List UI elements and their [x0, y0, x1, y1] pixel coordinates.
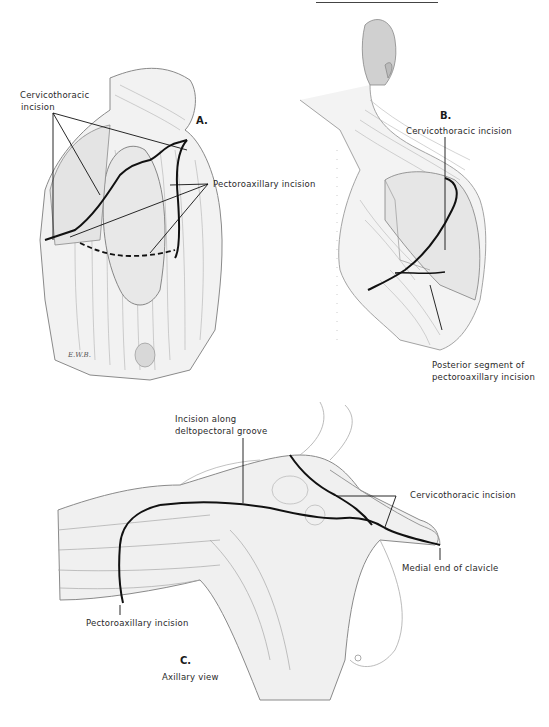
panel-b-letter: B.	[440, 110, 451, 121]
label-a-cervicothoracic-line2: incision	[21, 102, 55, 113]
label-c-medial-clavicle: Medial end of clavicle	[402, 563, 499, 574]
label-c-deltopectoral-line2: deltopectoral groove	[175, 426, 267, 437]
panel-c-letter: C.	[180, 655, 191, 666]
label-c-pectoroaxillary: Pectoroaxillary incision	[86, 618, 189, 629]
label-c-deltopectoral-line1: Incision along	[175, 414, 236, 425]
panel-a-letter: A.	[196, 115, 208, 126]
panel-b-drawing	[300, 20, 486, 350]
label-a-cervicothoracic-line1: Cervicothoracic	[20, 90, 89, 101]
panel-c-caption: Axillary view	[162, 672, 219, 683]
label-b-cervicothoracic: Cervicothoracic incision	[406, 126, 512, 137]
panel-c-drawing	[58, 402, 440, 700]
label-a-pectoroaxillary: Pectoroaxillary incision	[213, 179, 316, 190]
label-b-posterior-line2: pectoroaxillary incision	[432, 372, 535, 383]
label-c-cervicothoracic: Cervicothoracic incision	[410, 490, 516, 501]
artist-signature: E.W.B.	[68, 351, 91, 359]
panel-a-drawing	[40, 68, 222, 380]
label-b-posterior-line1: Posterior segment of	[432, 360, 524, 371]
